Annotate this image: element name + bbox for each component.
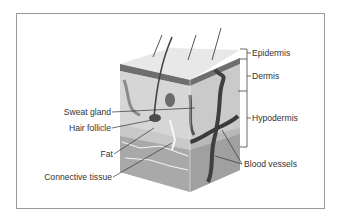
label-hypodermis: Hypodermis — [252, 113, 298, 123]
label-sweat-gland: Sweat gland — [64, 107, 111, 117]
label-dermis: Dermis — [252, 71, 279, 81]
label-hair-follicle: Hair follicle — [69, 123, 111, 133]
label-fat: Fat — [101, 149, 113, 159]
sebaceous-gland — [165, 93, 175, 107]
label-epidermis: Epidermis — [252, 48, 290, 58]
label-blood-vessels: Blood vessels — [244, 159, 297, 169]
label-connective-tissue: Connective tissue — [44, 172, 112, 182]
skin-illustration — [0, 0, 341, 218]
hair-follicle-shape — [149, 114, 161, 122]
